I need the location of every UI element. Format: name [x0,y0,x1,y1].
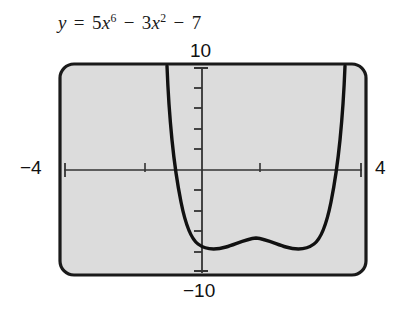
equation-term2-variable: x [152,12,161,33]
equation-term2-coefficient: 3 [142,12,152,33]
graph-figure: y = 5x6 − 3x2 − 7 10 −10 −4 4 [0,0,396,319]
equation-term1-exponent: 6 [110,12,116,25]
plot-svg [58,62,368,277]
equation-lhs: y [58,12,67,33]
y-axis-min-label: −10 [183,280,215,302]
x-axis-min-label: −4 [20,157,42,179]
plot-panel [58,62,368,277]
equation-equals: = [72,12,87,33]
equation-operator-1: − [122,12,137,33]
equation-caption: y = 5x6 − 3x2 − 7 [58,12,201,34]
x-axis-max-label: 4 [375,157,386,179]
equation-operator-2: − [172,12,187,33]
y-axis-max-label: 10 [190,40,211,62]
equation-term1-coefficient: 5 [92,12,102,33]
equation-term3-constant: 7 [192,12,202,33]
equation-term2-exponent: 2 [160,12,166,25]
